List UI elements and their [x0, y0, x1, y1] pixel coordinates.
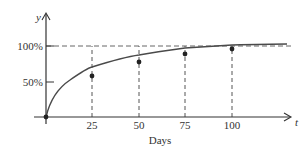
y-axis-symbol: y	[35, 11, 41, 23]
data-point-25	[90, 74, 95, 79]
data-point-75	[183, 52, 188, 57]
x-tick-label-25: 25	[87, 119, 99, 131]
data-point-100	[230, 47, 235, 52]
x-tick-label-50: 50	[134, 119, 146, 131]
growth-curve	[46, 44, 287, 117]
x-tick-label-75: 75	[180, 119, 192, 131]
x-tick-label-100: 100	[224, 119, 241, 131]
data-point-0	[44, 115, 49, 120]
chart: y t 100% 50% 25 50 75 100 Days	[0, 0, 304, 151]
y-tick-label-50: 50%	[23, 76, 43, 88]
data-point-50	[137, 60, 142, 65]
x-axis-label: Days	[149, 134, 172, 146]
t-axis-symbol: t	[295, 116, 299, 128]
y-tick-label-100: 100%	[17, 40, 43, 52]
